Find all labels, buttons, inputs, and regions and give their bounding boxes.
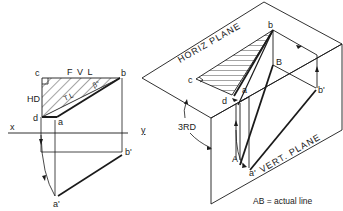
third-angle-arc-bottom: [190, 133, 211, 148]
label-a-iso: a: [242, 85, 247, 95]
label-d-iso: d: [222, 96, 227, 106]
third-angle-arc-top: [184, 103, 186, 118]
arrow-arc-icon: [42, 175, 46, 181]
line-B-bprime: [273, 65, 316, 88]
arrow-down-icon: [39, 139, 43, 145]
label-B-iso: B: [276, 57, 282, 67]
label-A-iso: A: [232, 154, 238, 164]
front-view-line: [58, 155, 122, 196]
arrow-A-icon: [242, 163, 247, 168]
label-a: a: [58, 117, 63, 127]
arrow-up-icon: [315, 66, 319, 72]
arrow-up-icon-2: [234, 120, 238, 126]
label-b-iso: b: [268, 20, 273, 30]
true-length-triangle: [42, 78, 120, 117]
label-y: y: [141, 125, 146, 135]
label-hd: HD: [27, 94, 40, 104]
arrow-d-icon: [232, 98, 238, 102]
projector-b-right: [273, 30, 317, 55]
right-isometric-view: [142, 2, 342, 204]
label-c-iso: c: [188, 75, 193, 85]
label-fvl: F V L: [67, 67, 94, 77]
label-x: x: [10, 122, 15, 132]
caption-actual-line: AB = actual line: [253, 196, 313, 206]
label-a-prime-iso: a': [249, 168, 256, 178]
arrow-3rd-top-icon: [184, 99, 188, 104]
label-a-prime: a': [53, 199, 60, 209]
label-b-prime: b': [125, 147, 132, 157]
label-c: c: [35, 68, 40, 78]
label-vert-plane: VERT. PLANE: [258, 132, 322, 175]
label-b: b: [121, 68, 126, 78]
descriptive-geometry-diagram: c b F V L HD T L β° d a x y b' a': [0, 0, 343, 211]
actual-line-AB: [240, 65, 273, 165]
label-d: d: [33, 113, 38, 123]
label-third-angle: 3RD: [178, 122, 197, 132]
label-b-prime-iso: b': [318, 85, 325, 95]
rotation-arc: [41, 135, 55, 196]
right-view-labels: HORIZ PLANE VERT. PLANE b B c d a A a' b…: [176, 20, 325, 178]
